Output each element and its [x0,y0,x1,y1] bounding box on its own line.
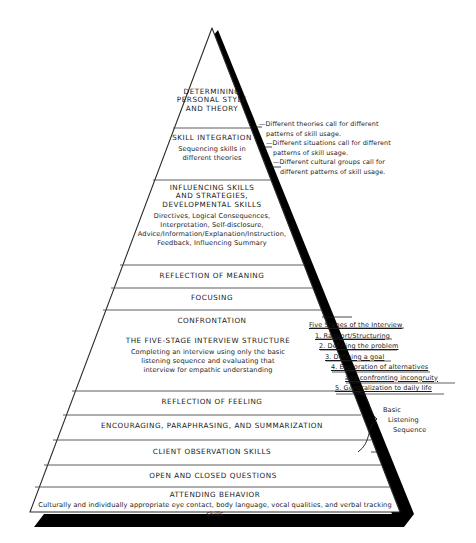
five-stages-item: 5. Generalization to daily life [309,383,475,394]
five-stages-item: 1. Rapport/Structuring [309,331,475,342]
bls-line: Basic [383,406,453,416]
five-stages-item: and confronting incongruity [309,373,475,384]
five-stages-item: 2. Defining the problem [309,341,475,352]
five-stages-heading: Five Stages of the Interview [309,320,475,331]
pyramid-body [30,28,400,512]
five-stages-item: 4. Exploration of alternatives [309,362,475,373]
annot-line: —Different theories call for different [259,120,399,130]
pyramid-diagram: DETERMINING PERSONAL STYLE AND THEORY SK… [0,0,476,543]
five-stages-item: 3. Defining a goal [309,352,475,363]
annotation-five-stages: Five Stages of the Interview 1. Rapport/… [309,320,475,394]
bls-line: Listening [383,416,453,426]
annot-line: patterns of skill usage. [259,130,399,140]
bls-line: Sequence [383,426,453,436]
pyramid-base-shadow [34,514,414,527]
annot-line: —Different cultural groups call for [259,158,399,168]
annotation-basic-listening-sequence: Basic Listening Sequence [383,406,453,436]
annot-line: different patterns of skill usage. [259,168,399,178]
annotation-differing-patterns: —Different theories call for different p… [259,120,399,178]
pyramid-graphic [0,0,476,543]
annot-line: —Different situations call for different [259,139,399,149]
annot-line: patterns of skill usage. [259,149,399,159]
